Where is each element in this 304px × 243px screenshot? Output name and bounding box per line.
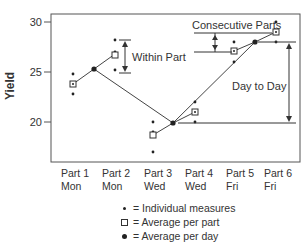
small-dot-icon (118, 207, 130, 210)
y-axis-label: Yield (3, 72, 17, 100)
day-to-day-label: Day to Day (232, 80, 287, 92)
part-average-centers (72, 31, 277, 113)
within-part-label: Within Part (132, 51, 186, 63)
y-tick-20: 20 (30, 116, 42, 128)
x-label-part4-day: Wed (185, 180, 207, 192)
consecutive-parts-label: Consecutive Parts (192, 19, 282, 31)
legend-item-day-average: = Average per day (118, 229, 235, 243)
y-tick-30: 30 (30, 16, 42, 28)
legend-item-individual: = Individual measures (118, 201, 235, 215)
legend-item-part-average: = Average per part (118, 215, 235, 229)
open-square-icon (118, 219, 130, 226)
x-label-part2: Part 2 (102, 167, 130, 179)
y-axis-ticks: 30 25 20 (30, 16, 51, 128)
x-label-part3-day: Wed (144, 180, 166, 192)
x-axis-labels: Part 1 Mon Part 2 Mon Part 3 Wed Part 4 … (61, 167, 292, 192)
x-label-part6: Part 6 (264, 167, 292, 179)
legend-label: = Average per part (133, 215, 220, 229)
legend-label: = Individual measures (133, 201, 235, 215)
x-label-part3: Part 3 (144, 167, 172, 179)
x-label-part4: Part 4 (185, 167, 213, 179)
y-tick-25: 25 (30, 66, 42, 78)
legend: = Individual measures = Average per part… (118, 201, 235, 243)
x-label-part5: Part 5 (226, 167, 254, 179)
within-part-bracket (119, 40, 131, 73)
x-label-part1-day: Mon (61, 180, 82, 192)
x-label-part6-day: Fri (264, 180, 276, 192)
x-label-part2-day: Mon (102, 180, 123, 192)
x-label-part1: Part 1 (61, 167, 89, 179)
legend-label: = Average per day (133, 229, 218, 243)
filled-dot-icon (118, 234, 130, 239)
x-label-part5-day: Fri (226, 180, 238, 192)
